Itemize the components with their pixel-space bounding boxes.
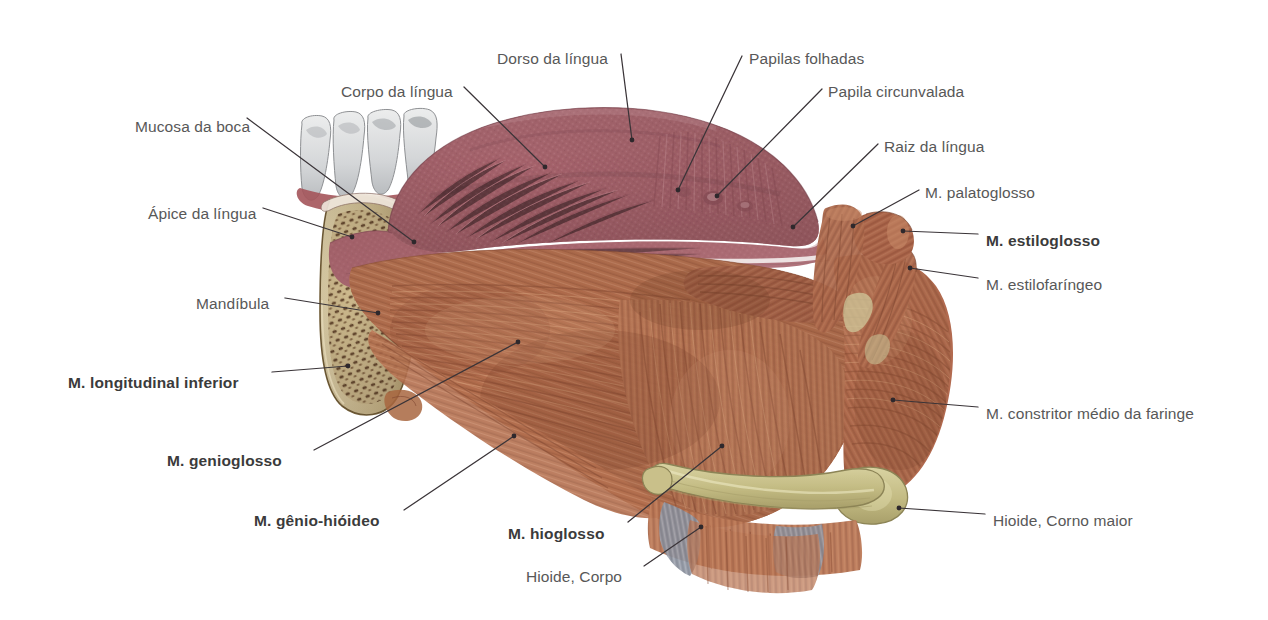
label-m-hioglosso: M. hioglosso: [508, 525, 605, 542]
label-m-genio-hioideo: M. gênio-hióideo: [254, 512, 380, 529]
label-hioide-corno-maior: Hioide, Corno maior: [993, 512, 1133, 529]
label-m-estiloglosso: M. estiloglosso: [986, 232, 1100, 249]
label-hioide-corpo: Hioide, Corpo: [526, 568, 622, 585]
label-mucosa-da-boca: Mucosa da boca: [135, 118, 250, 135]
label-mandibula: Mandíbula: [196, 295, 269, 312]
label-dorso-da-lingua: Dorso da língua: [497, 50, 608, 67]
anatomy-figure: Mucosa da bocaCorpo da línguaDorso da lí…: [0, 0, 1268, 620]
label-papila-circunvalada: Papila circunvalada: [828, 83, 964, 100]
label-m-constritor-medio: M. constritor médio da faringe: [986, 405, 1194, 422]
label-m-palatoglosso: M. palatoglosso: [925, 184, 1035, 201]
label-apice-da-lingua: Ápice da língua: [148, 205, 256, 222]
label-raiz-da-lingua: Raiz da língua: [884, 138, 985, 155]
label-corpo-da-lingua: Corpo da língua: [341, 83, 453, 100]
label-m-estilofaringeo: M. estilofaríngeo: [986, 276, 1102, 293]
label-m-genioglosso: M. genioglosso: [167, 452, 282, 469]
label-papilas-folhadas: Papilas folhadas: [749, 50, 864, 67]
label-m-longitudinal-inferior: M. longitudinal inferior: [68, 374, 239, 391]
